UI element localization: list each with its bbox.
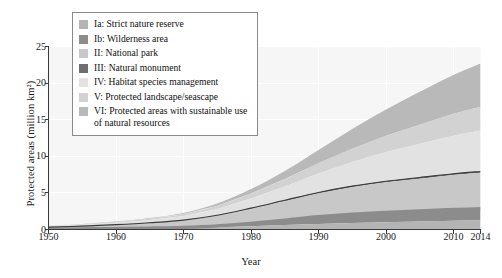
- legend-swatch-icon: [79, 20, 88, 29]
- x-tick-label: 2000: [361, 232, 411, 242]
- legend-item-label: V: Protected landscape/seascape: [94, 91, 218, 103]
- legend-item[interactable]: II: National park: [79, 47, 251, 59]
- legend-item[interactable]: Ia: Strict nature reserve: [79, 18, 251, 30]
- legend-item-label: Ib: Wilderness area: [94, 33, 168, 45]
- legend-item[interactable]: III: Natural monument: [79, 62, 251, 74]
- x-tick-label: 2014: [456, 232, 502, 242]
- legend-item-label: II: National park: [94, 47, 158, 59]
- chart-legend: Ia: Strict nature reserveIb: Wilderness …: [72, 12, 258, 136]
- legend-item-label: III: Natural monument: [94, 62, 181, 74]
- legend-item[interactable]: V: Protected landscape/seascape: [79, 91, 251, 103]
- legend-item[interactable]: VI: Protected areas with sustainable use…: [79, 105, 251, 129]
- legend-item[interactable]: IV: Habitat species management: [79, 76, 251, 88]
- legend-swatch-icon: [79, 93, 88, 102]
- legend-item-label: VI: Protected areas with sustainable use…: [94, 105, 251, 129]
- x-tick-label: 1960: [91, 232, 141, 242]
- legend-swatch-icon: [79, 35, 88, 44]
- legend-swatch-icon: [79, 107, 88, 116]
- legend-swatch-icon: [79, 64, 88, 73]
- x-axis-tick-labels: 19501960197019801990200020102014: [0, 232, 502, 248]
- x-axis-title: Year: [0, 256, 502, 267]
- protected-areas-stacked-area-chart: 0510152025 19501960197019801990200020102…: [0, 0, 502, 278]
- legend-item-label: IV: Habitat species management: [94, 76, 218, 88]
- legend-item-label: Ia: Strict nature reserve: [94, 18, 184, 30]
- legend-swatch-icon: [79, 78, 88, 87]
- legend-item[interactable]: Ib: Wilderness area: [79, 33, 251, 45]
- x-tick-label: 1990: [294, 232, 344, 242]
- legend-swatch-icon: [79, 49, 88, 58]
- y-axis-title: Protected areas (million km²): [25, 44, 36, 244]
- x-tick-label: 1970: [159, 232, 209, 242]
- x-tick-label: 1980: [226, 232, 276, 242]
